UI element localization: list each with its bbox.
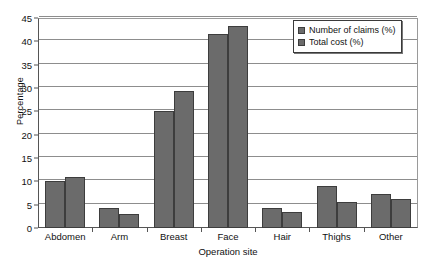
x-tick-label: Breast <box>160 231 187 242</box>
y-axis-ticks: 051015202530354045 <box>0 18 38 228</box>
bar <box>282 212 302 228</box>
bar <box>119 214 139 228</box>
x-axis-title: Operation site <box>38 246 418 257</box>
gridline <box>39 16 417 17</box>
y-tick-label: 5 <box>27 199 32 210</box>
y-tick-label: 20 <box>21 129 32 140</box>
y-tick-label: 15 <box>21 153 32 164</box>
x-tick-mark <box>201 228 202 232</box>
bar <box>262 208 282 228</box>
bar <box>174 91 194 228</box>
bar <box>65 177 85 228</box>
legend-item: Number of claims (%) <box>298 25 396 36</box>
x-tick-mark <box>255 228 256 232</box>
x-tick-label: Hair <box>274 231 291 242</box>
legend-item: Total cost (%) <box>298 37 396 48</box>
bar <box>45 181 65 228</box>
x-tick-label: Arm <box>111 231 128 242</box>
legend-label: Total cost (%) <box>309 37 364 48</box>
x-tick-mark <box>147 228 148 232</box>
legend-label: Number of claims (%) <box>309 25 396 36</box>
bar-group <box>147 18 201 228</box>
x-tick-label: Other <box>379 231 403 242</box>
bar <box>317 186 337 228</box>
y-tick-label: 35 <box>21 59 32 70</box>
x-tick-label: Thighs <box>322 231 351 242</box>
bar <box>154 111 174 228</box>
x-tick-mark <box>309 228 310 232</box>
bar <box>371 194 391 228</box>
legend-swatch-icon <box>298 27 305 34</box>
y-tick-label: 45 <box>21 13 32 24</box>
x-tick-label: Face <box>217 231 238 242</box>
x-tick-mark <box>364 228 365 232</box>
chart-legend: Number of claims (%)Total cost (%) <box>293 20 402 53</box>
bar-group <box>201 18 255 228</box>
y-tick-label: 25 <box>21 106 32 117</box>
y-tick-label: 10 <box>21 176 32 187</box>
y-tick-label: 0 <box>27 223 32 234</box>
bar <box>208 34 228 228</box>
bar <box>228 26 248 228</box>
bar <box>391 199 411 228</box>
x-tick-label: Abdomen <box>45 231 86 242</box>
x-axis-labels: AbdomenArmBreastFaceHairThighsOther <box>38 231 418 247</box>
x-tick-mark <box>92 228 93 232</box>
bar-chart: Percentage 051015202530354045 AbdomenArm… <box>0 0 435 265</box>
legend-swatch-icon <box>298 39 305 46</box>
bar-group <box>38 18 92 228</box>
bar <box>99 208 119 228</box>
bar <box>337 202 357 228</box>
bar-group <box>92 18 146 228</box>
y-tick-label: 40 <box>21 36 32 47</box>
y-tick-label: 30 <box>21 83 32 94</box>
